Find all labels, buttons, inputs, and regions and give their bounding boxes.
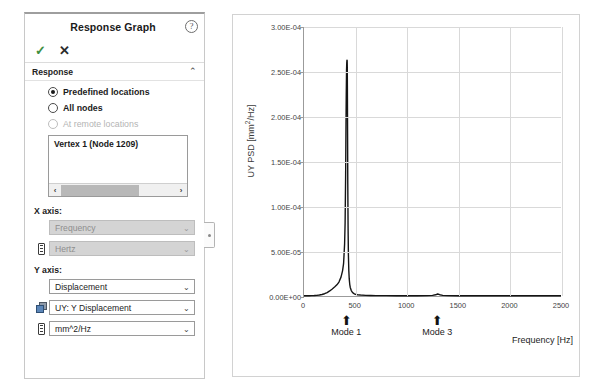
x-tick-label: 1500: [450, 301, 466, 310]
chevron-down-icon[interactable]: ⌄: [183, 280, 190, 295]
radio-icon: [48, 119, 58, 129]
x-axis-quantity-value: Frequency: [55, 223, 96, 233]
radio-predefined-locations[interactable]: Predefined locations: [48, 87, 195, 97]
plot-area-wrapper: UY PSD [mm2/Hz] 0.00E+005.00E-051.00E-04…: [233, 15, 579, 376]
mode-annotation: ⬆Mode 3: [422, 315, 452, 337]
scroll-left-icon[interactable]: ‹: [49, 186, 61, 195]
location-list-items: Vertex 1 (Node 1209): [49, 136, 187, 183]
mode-annotation-label: Mode 1: [331, 327, 361, 337]
y-axis-component-row: UY: Y Displacement ⌄: [34, 300, 195, 315]
radio-label: Predefined locations: [63, 87, 150, 97]
mode-annotation: ⬆Mode 1: [331, 315, 361, 337]
y-axis-label-exponent: 2: [244, 121, 251, 125]
chevron-down-icon: ⌄: [183, 221, 190, 236]
x-axis-label: Frequency [Hz]: [512, 335, 573, 345]
x-tick-label: 2000: [501, 301, 517, 310]
y-axis-component-select[interactable]: UY: Y Displacement ⌄: [49, 300, 195, 315]
gridline-vertical: [510, 27, 511, 296]
chevron-down-icon[interactable]: ⌄: [183, 301, 190, 316]
x-axis-ticks: 05001000150020002500: [303, 297, 561, 313]
x-tick-label: 1000: [398, 301, 414, 310]
y-tick-mark: [300, 252, 304, 253]
ruler-icon: [34, 323, 49, 335]
y-tick-mark: [300, 162, 304, 163]
radio-at-remote-locations: At remote locations: [48, 119, 195, 129]
y-axis-component-value: UY: Y Displacement: [55, 303, 131, 313]
x-axis-unit-value: Hertz: [55, 244, 76, 254]
ruler-icon: [34, 243, 49, 255]
gridline-vertical: [407, 27, 408, 296]
chevron-down-icon: ⌄: [183, 242, 190, 257]
response-section-header[interactable]: Response ⌃: [25, 63, 204, 81]
x-tick-label: 0: [301, 301, 305, 310]
x-axis-unit-row: Hertz ⌄: [34, 241, 195, 256]
y-tick-label: 2.50E-04: [255, 68, 301, 77]
gridline-horizontal: [304, 72, 561, 73]
y-tick-label: 3.00E-04: [255, 23, 301, 32]
y-tick-mark: [300, 27, 304, 28]
arrow-up-icon: ⬆: [422, 315, 452, 326]
chevron-up-icon[interactable]: ⌃: [189, 67, 197, 76]
y-tick-mark: [300, 117, 304, 118]
y-tick-label: 0.00E+00: [255, 293, 301, 302]
gridline-horizontal: [304, 117, 561, 118]
y-tick-label: 1.00E-04: [255, 203, 301, 212]
mode-annotation-label: Mode 3: [422, 327, 452, 337]
plot-area: [303, 27, 561, 297]
y-axis-group-label: Y axis:: [34, 265, 195, 275]
y-axis-quantity-row: Displacement ⌄: [34, 279, 195, 294]
y-axis-ticks: 0.00E+005.00E-051.00E-041.50E-042.00E-04…: [255, 15, 301, 376]
cancel-button[interactable]: ✕: [59, 44, 70, 57]
list-item[interactable]: Vertex 1 (Node 1209): [49, 139, 187, 150]
location-list[interactable]: Vertex 1 (Node 1209) ‹ ›: [48, 135, 188, 197]
response-graph-chart: UY PSD [mm2/Hz] 0.00E+005.00E-051.00E-04…: [232, 14, 580, 377]
panel-header: Response Graph ?: [25, 14, 204, 39]
radio-icon: [48, 87, 58, 97]
response-graph-panel: Response Graph ? ✓ ✕ Response ⌃ Predefin…: [24, 12, 205, 379]
x-axis-group-label: X axis:: [34, 206, 195, 216]
panel-body: Predefined locations All nodes At remote…: [25, 81, 204, 378]
x-axis-unit-select: Hertz ⌄: [49, 241, 195, 256]
x-axis-quantity-row: Frequency ⌄: [34, 220, 195, 235]
y-tick-mark: [300, 72, 304, 73]
cube-icon: [34, 302, 49, 314]
gridline-horizontal: [304, 27, 561, 28]
y-axis-unit-value: mm^2/Hz: [55, 324, 91, 334]
arrow-up-icon: ⬆: [331, 315, 361, 326]
scrollbar-thumb[interactable]: [61, 185, 139, 196]
gridline-horizontal: [304, 207, 561, 208]
scroll-right-icon[interactable]: ›: [175, 186, 187, 195]
x-axis-quantity-select: Frequency ⌄: [49, 220, 195, 235]
radio-label: All nodes: [63, 103, 103, 113]
radio-icon: [48, 103, 58, 113]
scrollbar-track[interactable]: [61, 185, 175, 196]
y-tick-label: 1.50E-04: [255, 158, 301, 167]
horizontal-scrollbar[interactable]: ‹ ›: [49, 183, 187, 196]
gridline-vertical: [356, 27, 357, 296]
help-circle-icon[interactable]: ?: [185, 20, 198, 33]
panel-action-toolbar: ✓ ✕: [25, 39, 204, 63]
panel-collapse-handle[interactable]: [204, 222, 215, 248]
gridline-horizontal: [304, 162, 561, 163]
chevron-down-icon[interactable]: ⌄: [183, 322, 190, 337]
page-title: Response Graph: [31, 21, 185, 33]
y-tick-label: 5.00E-05: [255, 248, 301, 257]
x-tick-label: 500: [348, 301, 360, 310]
section-label: Response: [32, 67, 189, 77]
y-axis-quantity-value: Displacement: [55, 282, 107, 292]
gridline-vertical: [459, 27, 460, 296]
handle-dot-icon: [208, 234, 211, 237]
accept-button[interactable]: ✓: [35, 44, 46, 57]
y-tick-label: 2.00E-04: [255, 113, 301, 122]
y-tick-mark: [300, 207, 304, 208]
radio-label: At remote locations: [63, 119, 138, 129]
y-axis-unit-select[interactable]: mm^2/Hz ⌄: [49, 321, 195, 336]
x-tick-label: 2500: [553, 301, 569, 310]
radio-all-nodes[interactable]: All nodes: [48, 103, 195, 113]
y-axis-unit-row: mm^2/Hz ⌄: [34, 321, 195, 336]
gridline-horizontal: [304, 252, 561, 253]
y-axis-quantity-select[interactable]: Displacement ⌄: [49, 279, 195, 294]
gridline-vertical: [562, 27, 563, 296]
